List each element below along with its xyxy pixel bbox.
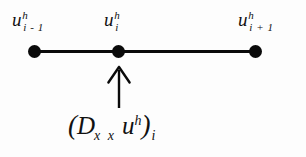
node-label-right-base: u (238, 9, 248, 30)
node-label-left-superscript: h (22, 9, 28, 21)
formula-function: u (122, 112, 135, 139)
stencil-figure: uhi - 1 uhi uhi + 1 (Dx xuh)i (0, 0, 306, 157)
operator-formula: (Dx xuh)i (68, 112, 155, 139)
node-label-left: uhi - 1 (12, 10, 44, 29)
up-arrow-icon (105, 64, 133, 108)
formula-open-paren: ( (68, 110, 77, 140)
formula-function-superscript: h (135, 113, 142, 128)
node-label-center: uhi (104, 10, 119, 29)
node-label-center-base: u (104, 9, 114, 30)
node-label-center-superscript: h (114, 9, 120, 21)
formula-close-paren: ) (142, 110, 151, 140)
node-label-center-subscript: i (115, 21, 119, 33)
node-label-right: uhi + 1 (238, 10, 274, 29)
node-label-right-superscript: h (248, 9, 254, 21)
formula-close-subscript: i (152, 128, 156, 143)
node-dot-left (28, 45, 41, 58)
formula-operator: D (77, 112, 95, 139)
node-dot-right (249, 45, 262, 58)
stencil-line (34, 50, 255, 53)
node-dot-center (112, 45, 125, 58)
node-label-left-base: u (12, 9, 22, 30)
formula-operator-subscript: x x (94, 128, 116, 143)
node-label-left-subscript: i - 1 (23, 21, 44, 33)
node-label-right-subscript: i + 1 (249, 21, 273, 33)
